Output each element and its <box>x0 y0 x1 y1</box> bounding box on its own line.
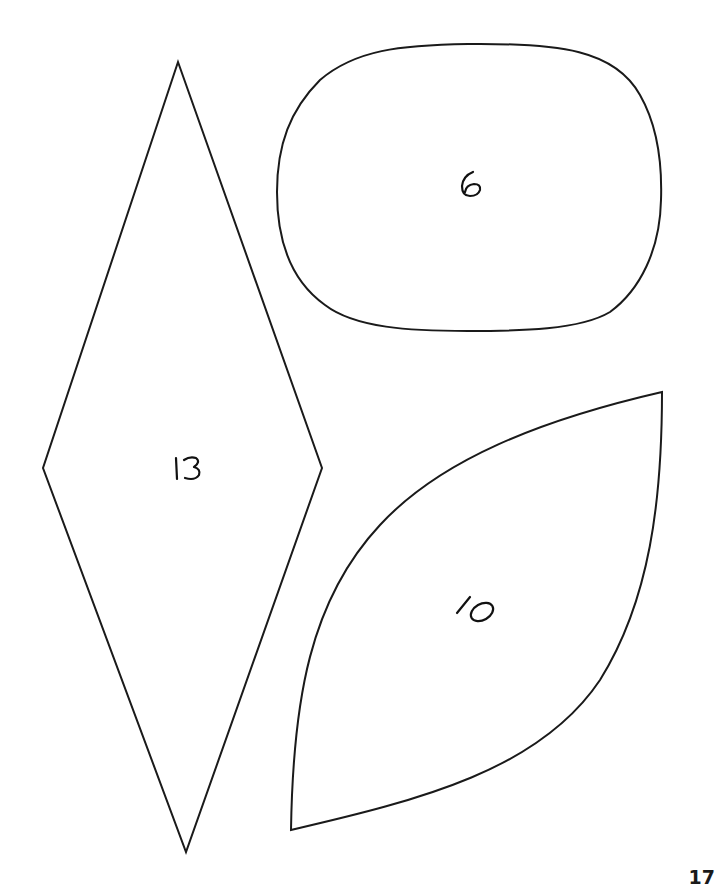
page-number: 17 <box>675 866 715 888</box>
pattern-canvas <box>0 0 715 892</box>
leaf-outline <box>291 392 662 830</box>
leaf-piece <box>291 392 662 830</box>
oval-piece <box>277 44 661 331</box>
oval-outline <box>277 44 661 331</box>
